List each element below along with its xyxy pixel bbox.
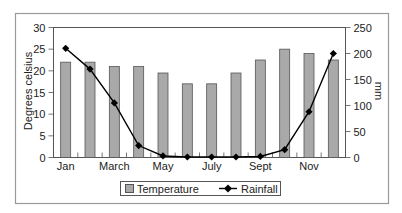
legend: Temperature Rainfall [121, 182, 281, 196]
left-tick-label: 5 [39, 130, 45, 142]
right-tick-label: 50 [354, 126, 366, 138]
left-tick-label: 0 [39, 152, 45, 164]
right-tick-label: 100 [354, 100, 372, 112]
temperature-bar [304, 54, 314, 158]
climate-chart: 051015202530 050100150200250 JanMarchMay… [0, 0, 402, 213]
temperature-bar [207, 84, 217, 158]
temperature-bar [231, 73, 241, 158]
right-axis-title: mm [373, 82, 385, 100]
temperature-bar [280, 49, 290, 157]
legend-rainfall-label: Rainfall [241, 183, 278, 195]
left-tick-label: 25 [33, 43, 45, 55]
right-tick-label: 250 [354, 22, 372, 34]
x-tick-label: March [99, 160, 130, 172]
temperature-bar [182, 84, 192, 158]
temperature-bar [255, 60, 265, 158]
temperature-bar [158, 73, 168, 158]
temperature-bar [61, 62, 71, 157]
left-tick-label: 10 [33, 108, 45, 120]
legend-temperature-label: Temperature [137, 183, 199, 195]
temperature-bar [328, 60, 338, 158]
chart-canvas: 051015202530 050100150200250 JanMarchMay… [0, 0, 402, 213]
left-axis-title: Degrees celsius [22, 51, 34, 130]
temperature-swatch-icon [126, 185, 134, 193]
x-tick-label: Nov [299, 160, 319, 172]
right-tick-label: 0 [354, 152, 360, 164]
right-tick-label: 150 [354, 74, 372, 86]
left-tick-label: 20 [33, 65, 45, 77]
left-tick-label: 15 [33, 87, 45, 99]
right-tick-label: 200 [354, 48, 372, 60]
temperature-bar [85, 62, 95, 157]
left-tick-label: 30 [33, 22, 45, 34]
x-tick-label: Jan [57, 160, 75, 172]
x-tick-label: May [153, 160, 174, 172]
x-tick-label: July [202, 160, 222, 172]
x-tick-label: Sept [249, 160, 272, 172]
temperature-bar [109, 67, 119, 158]
